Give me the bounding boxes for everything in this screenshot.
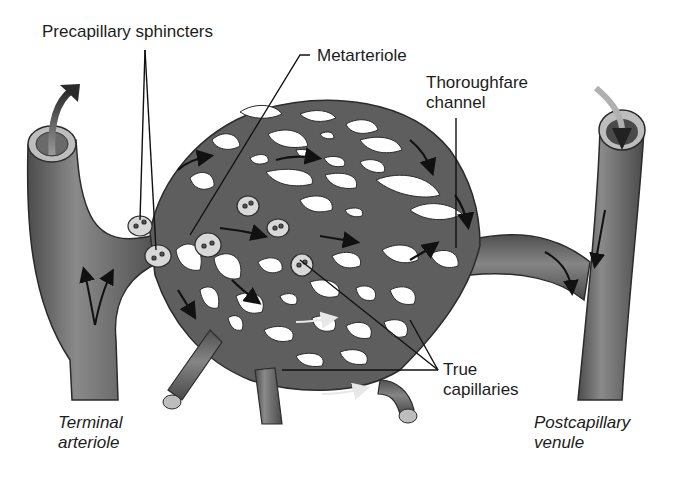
- label-precapillary-sphincters: Precapillary sphincters: [42, 22, 213, 42]
- label-postcapillary-venule: Postcapillary venule: [534, 413, 630, 453]
- label-thoroughfare-line1: Thoroughfare: [426, 73, 528, 93]
- label-true-capillaries-line1: True: [443, 360, 519, 380]
- label-thoroughfare-channel: Thoroughfare channel: [426, 73, 528, 113]
- label-true-capillaries: True capillaries: [443, 360, 519, 400]
- label-postcapillary-venule-line1: Postcapillary: [534, 413, 630, 433]
- capillary-bed-illustration: [0, 0, 681, 481]
- label-postcapillary-venule-line2: venule: [534, 433, 630, 453]
- sphincter-ring-icon: [237, 196, 259, 216]
- sphincter-ring-icon: [145, 245, 171, 267]
- label-terminal-arteriole-line2: arteriole: [58, 433, 123, 453]
- label-terminal-arteriole-line1: Terminal: [58, 413, 123, 433]
- sphincter-ring-icon: [267, 219, 289, 237]
- label-terminal-arteriole: Terminal arteriole: [58, 413, 123, 453]
- capillary-network: [150, 100, 480, 424]
- label-metarteriole: Metarteriole: [317, 46, 407, 66]
- postcapillary-venule: [470, 88, 645, 400]
- terminal-arteriole: [28, 84, 165, 400]
- leader-precapillary-1: [140, 50, 145, 220]
- label-true-capillaries-line2: capillaries: [443, 380, 519, 400]
- capillary-bed-diagram: Precapillary sphincters Metarteriole Tho…: [0, 0, 681, 481]
- sphincter-ring-icon: [291, 254, 313, 276]
- sphincter-ring-icon: [195, 233, 221, 257]
- label-thoroughfare-line2: channel: [426, 93, 528, 113]
